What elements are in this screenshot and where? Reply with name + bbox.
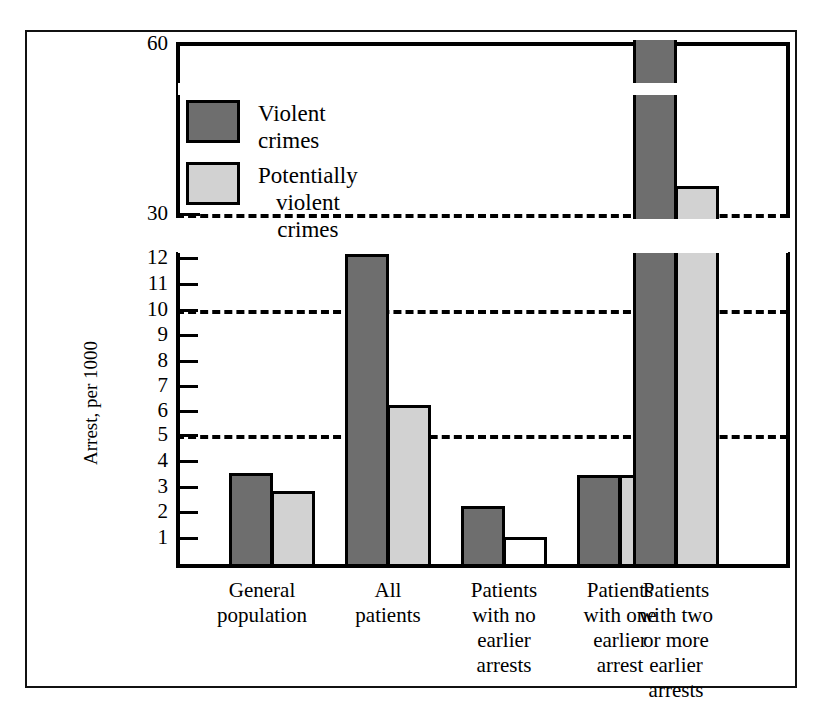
plot-area: 60 30 12 11 10 9 8 7 6 5 4 3 2 1 Arrest,… (0, 0, 815, 714)
y-tick-label-11: 11 (118, 273, 168, 294)
bar-all-patients-potentially-violent (387, 405, 431, 567)
catline: with two (602, 603, 750, 628)
plot-right-line-upper (786, 42, 790, 218)
y-tick-12 (176, 257, 198, 260)
chart-figure: 60 30 12 11 10 9 8 7 6 5 4 3 2 1 Arrest,… (0, 0, 815, 714)
y-tick-label-4: 4 (118, 450, 168, 471)
y-tick-9 (176, 334, 198, 337)
y-tick-3 (176, 486, 198, 489)
y-tick-label-30: 30 (118, 203, 168, 224)
plot-right-line-lower (786, 252, 790, 568)
y-tick-label-60: 60 (118, 33, 168, 54)
catline: Patients (602, 578, 750, 603)
legend-item-violent-crimes: Violent crimes (186, 100, 326, 154)
y-tick-label-2: 2 (118, 501, 168, 522)
legend-item-potentially-violent-crimes: Potentially violent crimes Potentially v… (186, 162, 358, 243)
bar-one-earlier-arrest-violent (577, 475, 621, 567)
y-tick-6 (176, 410, 198, 413)
y-axis-line-upper (176, 42, 180, 218)
catline: or more (602, 628, 750, 653)
y-tick-label-8: 8 (118, 350, 168, 371)
bar-general-population-violent (229, 473, 273, 567)
y-tick-label-9: 9 (118, 324, 168, 345)
axis-break-gap-upper (178, 83, 788, 95)
y-tick-8 (176, 360, 198, 363)
legend-label-line-potentially: Potentially (258, 162, 358, 189)
catline: arrests (602, 678, 750, 703)
y-tick-11 (176, 283, 198, 286)
y-tick-label-12: 12 (118, 247, 168, 268)
y-tick-label-6: 6 (118, 400, 168, 421)
y-tick-2 (176, 511, 198, 514)
bar-no-earlier-arrests-violent (461, 506, 505, 567)
legend-swatch-violent-crimes-icon (186, 100, 240, 143)
x-category-label-two-or-more-arrests: Patients with two or more earlier arrest… (602, 578, 750, 703)
bar-no-earlier-arrests-potentially-violent (503, 537, 547, 567)
y-tick-5 (176, 434, 198, 437)
bar-general-population-potentially-violent (271, 491, 315, 567)
y-tick-4 (176, 460, 198, 463)
y-tick-7 (176, 385, 198, 388)
legend-label-line-violent-crimes: violent crimes (258, 189, 358, 243)
y-axis-title: Arrest, per 1000 (80, 341, 102, 465)
plot-top-line (176, 42, 790, 46)
y-tick-1 (176, 537, 198, 540)
bar-all-patients-violent (345, 254, 389, 567)
y-tick-label-7: 7 (118, 375, 168, 396)
y-tick-label-5: 5 (118, 424, 168, 445)
legend-label-potentially-violent-crimes: Potentially violent crimes Potentially v… (258, 162, 358, 243)
right-frame-break-segment (786, 83, 790, 95)
y-tick-10 (176, 309, 198, 312)
catline: earlier (602, 653, 750, 678)
legend-swatch-potentially-violent-crimes-icon (186, 162, 240, 205)
y-tick-label-10: 10 (118, 299, 168, 320)
y-tick-label-3: 3 (118, 476, 168, 497)
bar-two-or-more-arrests-violent (633, 40, 677, 567)
y-tick-label-1: 1 (118, 527, 168, 548)
legend-label-violent-crimes: Violent crimes (258, 100, 326, 154)
